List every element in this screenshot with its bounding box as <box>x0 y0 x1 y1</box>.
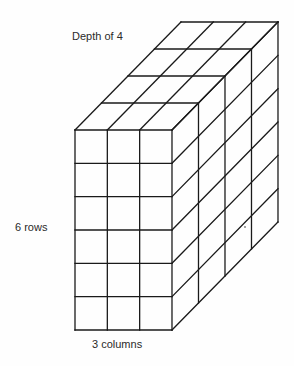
diagram-canvas: Depth of 4 6 rows 3 columns <box>0 0 294 366</box>
cube-prism-drawing <box>0 0 294 366</box>
depth-label: Depth of 4 <box>72 30 123 42</box>
rows-label: 6 rows <box>15 221 47 233</box>
columns-label: 3 columns <box>92 338 142 350</box>
scan-speck <box>244 226 246 228</box>
